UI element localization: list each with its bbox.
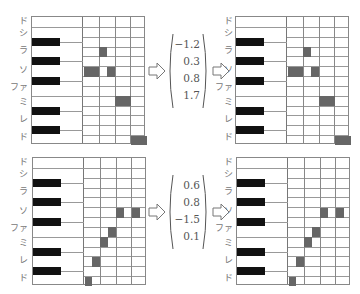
note-cell bbox=[107, 67, 115, 77]
note-label: ファ bbox=[10, 223, 28, 233]
note-cell bbox=[116, 208, 124, 218]
white-key-divider bbox=[32, 96, 83, 97]
grid-col-line bbox=[131, 158, 132, 284]
grid-row-line bbox=[287, 96, 348, 97]
note-label: レ bbox=[224, 114, 233, 124]
black-key bbox=[33, 179, 61, 187]
note-cell bbox=[311, 67, 319, 77]
piano-roll-bottom-right bbox=[236, 157, 350, 285]
black-key bbox=[237, 267, 265, 275]
vector-value: 0.3 bbox=[174, 53, 202, 70]
note-label: シ bbox=[19, 169, 28, 179]
note-label: ド bbox=[19, 16, 28, 26]
right-paren-icon bbox=[202, 174, 210, 250]
grid-row-line bbox=[84, 276, 145, 277]
note-cell bbox=[85, 277, 93, 287]
hollow-right-arrow-icon bbox=[212, 203, 230, 221]
note-cell bbox=[132, 208, 140, 218]
note-label: ミ bbox=[224, 97, 233, 107]
grid-row-line bbox=[288, 178, 349, 179]
grid-col-line bbox=[115, 17, 116, 143]
grid-row-line bbox=[287, 86, 348, 87]
note-label: レ bbox=[224, 255, 233, 265]
black-key bbox=[32, 126, 60, 134]
piano-roll-top-right bbox=[235, 16, 349, 144]
grid-row-line bbox=[287, 106, 348, 107]
note-label: ファ bbox=[215, 82, 233, 92]
grid-row-line bbox=[84, 168, 145, 169]
note-cell bbox=[335, 136, 351, 146]
black-key bbox=[237, 179, 265, 187]
grid-row-line bbox=[83, 125, 144, 126]
note-cell bbox=[115, 96, 131, 106]
vector-value: 0.1 bbox=[174, 228, 202, 245]
grid-col-line bbox=[130, 17, 131, 143]
vector-value: 0.8 bbox=[174, 194, 202, 211]
grid-col-line bbox=[335, 158, 336, 284]
grid-row-line bbox=[288, 247, 349, 248]
note-label: ファ bbox=[10, 82, 28, 92]
black-key bbox=[33, 248, 61, 256]
vector-value: 0.8 bbox=[174, 70, 202, 87]
note-cell bbox=[99, 47, 107, 57]
note-grid bbox=[288, 158, 349, 284]
grid-row-line bbox=[288, 188, 349, 189]
note-label: ミ bbox=[19, 97, 28, 107]
grid-row-line bbox=[83, 96, 144, 97]
note-labels-bottom-left: ドシラソファミレド bbox=[8, 157, 28, 285]
grid-row-line bbox=[83, 56, 144, 57]
white-key-divider bbox=[33, 237, 84, 238]
note-label: シ bbox=[19, 28, 28, 38]
white-key-divider bbox=[32, 27, 83, 28]
note-label: ラ bbox=[19, 45, 28, 55]
grid-row-line bbox=[287, 125, 348, 126]
note-cell bbox=[84, 67, 100, 77]
note-label: ソ bbox=[19, 65, 28, 75]
hollow-right-arrow-icon bbox=[148, 203, 166, 221]
note-label: ド bbox=[224, 16, 233, 26]
note-label: ド bbox=[19, 273, 28, 283]
note-label: ド bbox=[19, 132, 28, 142]
grid-col-line bbox=[116, 158, 117, 284]
grid-col-line bbox=[99, 17, 100, 143]
note-label: ソ bbox=[19, 206, 28, 216]
note-cell bbox=[288, 67, 304, 77]
grid-col-line bbox=[319, 17, 320, 143]
black-key bbox=[32, 38, 60, 46]
piano-keyboard bbox=[33, 158, 84, 284]
note-cell bbox=[336, 208, 344, 218]
note-grid bbox=[84, 158, 145, 284]
white-key-divider bbox=[237, 237, 288, 238]
black-key bbox=[33, 198, 61, 206]
note-label: シ bbox=[224, 28, 233, 38]
black-key bbox=[236, 126, 264, 134]
note-label: ラ bbox=[224, 45, 233, 55]
black-key bbox=[33, 267, 61, 275]
black-key bbox=[32, 77, 60, 85]
grid-row-line bbox=[83, 106, 144, 107]
note-cell bbox=[312, 227, 320, 237]
note-cell bbox=[320, 208, 328, 218]
black-key bbox=[236, 38, 264, 46]
note-cell bbox=[131, 136, 147, 146]
vector-value: 1.7 bbox=[174, 87, 202, 104]
grid-row-line bbox=[287, 47, 348, 48]
white-key-divider bbox=[33, 168, 84, 169]
black-key bbox=[237, 198, 265, 206]
black-key bbox=[237, 218, 265, 226]
black-key bbox=[236, 57, 264, 65]
note-label: ファ bbox=[215, 223, 233, 233]
grid-row-line bbox=[83, 115, 144, 116]
grid-row-line bbox=[288, 168, 349, 169]
note-label: ラ bbox=[224, 186, 233, 196]
piano-keyboard bbox=[236, 17, 287, 143]
note-label: ド bbox=[19, 157, 28, 167]
black-key bbox=[236, 107, 264, 115]
grid-col-line bbox=[303, 17, 304, 143]
left-paren-icon bbox=[166, 174, 174, 250]
note-cell bbox=[92, 257, 100, 267]
hollow-right-arrow-icon bbox=[148, 62, 166, 80]
grid-row-line bbox=[84, 178, 145, 179]
grid-row-line bbox=[83, 27, 144, 28]
vector-top: −1.2 0.3 0.8 1.7 bbox=[166, 33, 210, 109]
